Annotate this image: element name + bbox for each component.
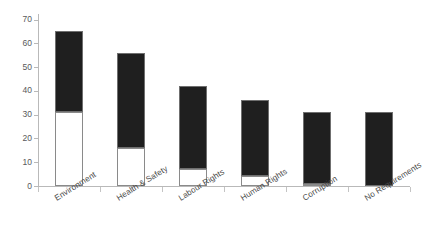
bar-health-safety[interactable] — [117, 53, 145, 186]
y-tick-mark — [34, 162, 38, 163]
y-tick-label-wrap: 70 — [6, 15, 32, 24]
y-tick-label-wrap: 50 — [6, 63, 32, 72]
x-tick-mark — [286, 187, 287, 192]
y-axis-line — [38, 14, 39, 187]
bar-segment-filled — [55, 31, 83, 112]
bar-segment-filled — [365, 112, 393, 186]
y-tick-label-wrap: 20 — [6, 134, 32, 143]
bar-environment[interactable] — [55, 31, 83, 186]
y-tick-label: 10 — [10, 158, 32, 167]
chart-title — [0, 0, 416, 1]
x-tick-mark — [348, 187, 349, 192]
x-tick-mark — [162, 187, 163, 192]
y-tick-mark — [34, 43, 38, 44]
x-tick-mark — [410, 187, 411, 192]
y-tick-mark — [34, 20, 38, 21]
bar-segment-filled — [241, 100, 269, 176]
y-tick-mark — [34, 91, 38, 92]
y-tick-mark — [34, 115, 38, 116]
y-tick-label: 20 — [10, 134, 32, 143]
bar-segment-empty — [55, 112, 83, 186]
y-tick-label-wrap: 30 — [6, 110, 32, 119]
bar-corruption[interactable] — [303, 112, 331, 186]
y-tick-label: 50 — [10, 63, 32, 72]
x-tick-mark — [224, 187, 225, 192]
y-tick-label: 70 — [10, 15, 32, 24]
y-tick-label-wrap: 0 — [6, 182, 32, 191]
bar-human-rights[interactable] — [241, 100, 269, 186]
bar-segment-filled — [303, 112, 331, 183]
y-tick-mark — [34, 138, 38, 139]
y-tick-label-wrap: 10 — [6, 158, 32, 167]
y-tick-label-wrap: 60 — [6, 39, 32, 48]
x-tick-mark — [38, 187, 39, 192]
y-tick-label: 40 — [10, 86, 32, 95]
bar-no-requirements[interactable] — [365, 112, 393, 186]
y-tick-mark — [34, 67, 38, 68]
x-tick-mark — [100, 187, 101, 192]
y-tick-label: 0 — [10, 182, 32, 191]
bar-labour-rights[interactable] — [179, 86, 207, 186]
y-tick-label: 60 — [10, 39, 32, 48]
bar-segment-filled — [117, 53, 145, 148]
bar-segment-filled — [179, 86, 207, 169]
y-tick-label: 30 — [10, 110, 32, 119]
y-tick-label-wrap: 40 — [6, 86, 32, 95]
